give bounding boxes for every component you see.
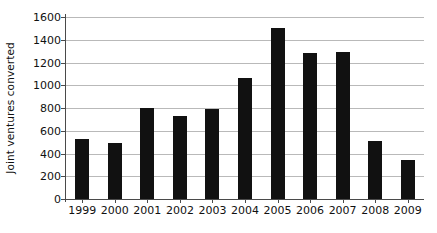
x-axis-tick-mark [245,199,246,203]
y-axis-tick-mark [61,199,66,200]
y-axis-tick-labels: 02004006008001000120014001600 [20,17,61,199]
bar [303,53,317,199]
bar [108,143,122,199]
x-axis-tick-label: 2003 [198,205,226,217]
x-axis-tick-mark [375,199,376,203]
bar [368,141,382,199]
x-axis-tick-mark [212,199,213,203]
x-axis-tick-label: 1999 [68,205,96,217]
bar [140,108,154,199]
y-axis-tick-label: 600 [40,125,61,136]
bar [238,78,252,199]
x-axis-tick-label: 2004 [231,205,259,217]
x-axis-tick-label: 2006 [296,205,324,217]
plot-area [66,17,424,199]
x-axis-tick-label: 2002 [166,205,194,217]
x-axis-tick-mark [82,199,83,203]
x-axis-tick-mark [180,199,181,203]
bar-chart: Joint ventures converted 020040060080010… [0,0,437,233]
bar [336,52,350,199]
y-axis-tick-mark [61,63,66,64]
x-axis-tick-mark [343,199,344,203]
bar [173,116,187,199]
y-axis-tick-mark [61,154,66,155]
x-axis-tick-label: 2000 [101,205,129,217]
x-axis-tick-label: 2008 [361,205,389,217]
y-axis-tick-label: 400 [40,148,61,159]
y-axis-tick-label: 1400 [33,34,61,45]
x-axis-tick-label: 2005 [264,205,292,217]
y-axis-tick-label: 1200 [33,57,61,68]
y-axis-title-text: Joint ventures converted [4,42,16,174]
y-axis-tick-mark [61,40,66,41]
x-axis-tick-mark [310,199,311,203]
x-axis-tick-label: 2001 [133,205,161,217]
x-axis-tick-mark [115,199,116,203]
x-axis-tick-label: 2009 [394,205,422,217]
bar [75,139,89,199]
y-axis-tick-mark [61,108,66,109]
x-axis-tick-label: 2007 [329,205,357,217]
y-axis-tick-mark [61,131,66,132]
y-axis-tick-mark [61,17,66,18]
gridline [66,17,424,18]
y-axis-tick-label: 200 [40,171,61,182]
gridline [66,40,424,41]
x-axis-tick-labels: 1999200020012002200320042005200620072008… [66,203,424,223]
bar [271,28,285,199]
bar [401,160,415,199]
y-axis-tick-label: 0 [54,194,61,205]
y-axis-tick-mark [61,176,66,177]
x-axis-tick-mark [147,199,148,203]
y-axis-title: Joint ventures converted [0,0,20,215]
x-axis-tick-mark [278,199,279,203]
x-axis-tick-mark [408,199,409,203]
y-axis-tick-mark [61,85,66,86]
y-axis-tick-label: 800 [40,103,61,114]
gridline [66,63,424,64]
y-axis-tick-label: 1600 [33,12,61,23]
y-axis-tick-label: 1000 [33,80,61,91]
bar [205,109,219,199]
